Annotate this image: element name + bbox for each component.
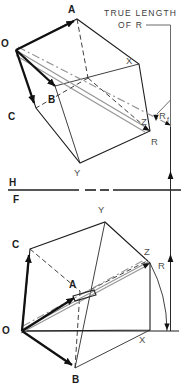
top-view-box: A O B C X Y Z R R f: [1, 4, 171, 178]
vector-a-front: [22, 298, 74, 331]
label-r-front: R: [158, 260, 165, 271]
label-z-top: Z: [141, 116, 147, 127]
label-z-front: Z: [144, 246, 150, 257]
label-f-plane: F: [13, 194, 19, 205]
label-y-top: Y: [74, 167, 81, 178]
label-x-front: X: [139, 334, 146, 345]
top-edge-b-y: [55, 86, 80, 163]
label-rf-subscript: f: [167, 116, 169, 123]
vector-a-top: [16, 21, 74, 50]
label-x-top: X: [126, 55, 133, 66]
annotation-line1: TRUE LENGTH: [104, 8, 177, 18]
label-b-front: B: [72, 374, 79, 385]
fold-line: H F: [8, 177, 181, 205]
diagram-canvas: A O B C X Y Z R R f TRUE LENGTH OF R H F: [0, 0, 184, 389]
projection-up-arrow-upper: [168, 171, 174, 179]
projection-up-arrow-lower: [168, 254, 174, 262]
label-c-top: C: [8, 111, 15, 122]
annotation-line2: OF R: [118, 20, 143, 30]
projection-line-group: [168, 127, 174, 331]
label-h-plane: H: [9, 177, 16, 188]
top-hidden-a-d: [77, 19, 88, 78]
descriptive-geometry-diagram: A O B C X Y Z R R f TRUE LENGTH OF R H F: [0, 0, 184, 389]
label-o-top: O: [1, 38, 9, 49]
label-c-front: C: [12, 239, 19, 250]
label-a-top: A: [68, 4, 75, 15]
vector-c-front: [22, 255, 29, 331]
annotation-leader-arrowhead: [153, 115, 158, 121]
label-o-front: O: [2, 325, 10, 336]
label-rf: R: [159, 110, 166, 121]
front-view-box: Y C Z R A O X B: [2, 204, 179, 385]
rotation-arc-arrowhead: [164, 324, 169, 331]
label-a-front: A: [69, 279, 76, 290]
top-edge-b-x: [55, 64, 139, 86]
label-r-top: R: [151, 136, 158, 147]
rotation-arc: [150, 263, 167, 331]
vector-b-front: [22, 331, 72, 365]
label-y-front: Y: [98, 204, 105, 215]
label-b-top: B: [48, 94, 55, 105]
